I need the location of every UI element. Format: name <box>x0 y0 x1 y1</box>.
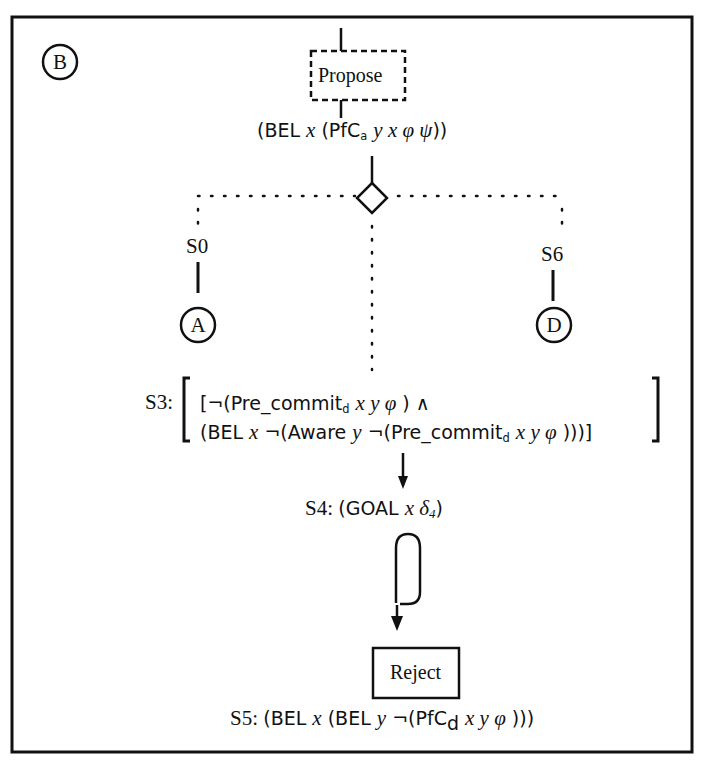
formula-text: (BEL <box>200 421 249 443</box>
s3-left-bracket <box>184 378 190 441</box>
s5-state: S5: (BEL x (BEL y ¬(PfCd x y φ ))) <box>230 708 534 733</box>
formula-subscript: d <box>342 402 349 416</box>
formula-var: x <box>306 118 315 142</box>
formula-text: ) <box>436 497 443 519</box>
formula-text: ))) <box>506 707 534 729</box>
formula-subscript: d <box>503 431 510 445</box>
formula-var: y x φ ψ <box>373 118 432 142</box>
s3-right-bracket <box>652 378 658 441</box>
top-condition: (BEL x (PfCa y x φ ψ)) <box>257 120 447 142</box>
reject-node-label: Reject <box>390 662 441 682</box>
formula-text: (GOAL <box>338 497 404 519</box>
s0-label: S0 <box>186 236 208 257</box>
s3-label: S3: <box>145 392 173 413</box>
s3-line1: [¬(Pre_commitd x y φ ) ∧ <box>200 393 430 415</box>
propose-node-label: Propose <box>318 65 382 85</box>
panel-label: B <box>43 45 77 79</box>
formula-var: y <box>352 420 361 444</box>
s4-loop <box>396 534 420 604</box>
formula-text: )))] <box>557 421 593 443</box>
formula-var: x δ <box>405 496 429 520</box>
formula-text: ) ∧ <box>396 392 429 414</box>
s6-label: S6 <box>541 244 563 265</box>
formula-text: [¬(Pre_commit <box>200 392 342 414</box>
s4-state: S4: (GOAL x δ4) <box>305 498 443 520</box>
s5-label: S5: <box>230 706 263 730</box>
formula-text: ¬(Aware <box>258 421 352 443</box>
s3-to-s4-arrowhead <box>398 476 408 489</box>
formula-text: ¬(Pre_commit <box>362 421 503 443</box>
diagram-canvas <box>0 0 702 764</box>
formula-text: (PfC <box>315 119 360 141</box>
formula-var: x y φ <box>465 706 506 730</box>
s4-to-reject-arrowhead <box>391 616 403 631</box>
s4-label: S4: <box>305 496 338 520</box>
formula-text: (BEL <box>263 707 312 729</box>
formula-var: x y φ <box>356 391 397 415</box>
node-a-label: A <box>181 308 215 342</box>
node-d-label: D <box>537 308 571 342</box>
formula-var: y <box>377 706 386 730</box>
formula-text: ¬(PfC <box>386 707 447 729</box>
formula-subscript: d <box>447 712 459 734</box>
formula-var: x <box>312 706 321 730</box>
formula-text: )) <box>432 119 447 141</box>
branch-diamond <box>357 183 387 213</box>
formula-text: (BEL <box>322 707 377 729</box>
s3-line2: (BEL x ¬(Aware y ¬(Pre_commitd x y φ )))… <box>200 422 592 444</box>
formula-var: x y φ <box>516 420 557 444</box>
formula-text: (BEL <box>257 119 306 141</box>
formula-var: x <box>249 420 258 444</box>
